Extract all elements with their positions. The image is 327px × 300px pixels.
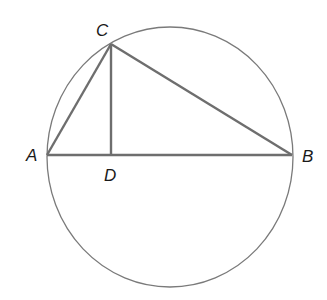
point-label-d: D xyxy=(104,167,116,184)
circumcircle xyxy=(47,27,293,287)
geometry-diagram xyxy=(0,0,327,300)
point-label-c: C xyxy=(96,22,108,39)
segment-bc xyxy=(111,44,292,155)
point-label-b: B xyxy=(302,148,313,165)
segment-ac xyxy=(47,44,111,155)
point-label-a: A xyxy=(26,147,37,164)
